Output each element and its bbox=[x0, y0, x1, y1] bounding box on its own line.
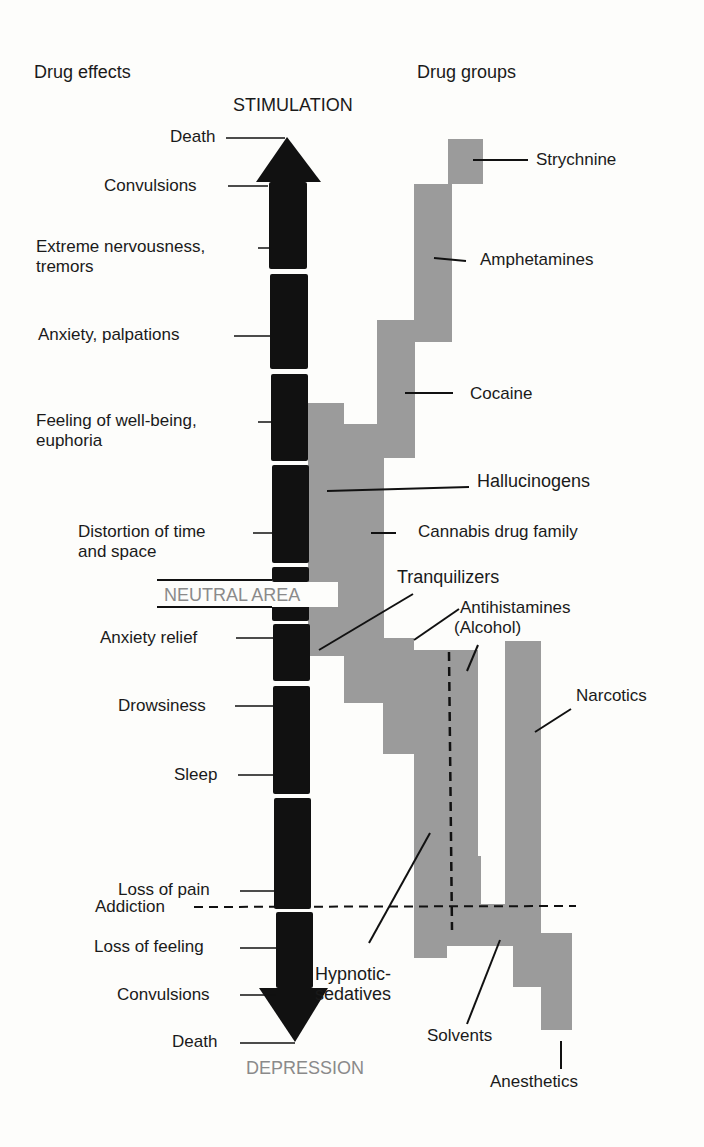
group-strychnine: Strychnine bbox=[536, 150, 616, 170]
effect-loss-of-pain: Loss of pain bbox=[118, 880, 210, 900]
effect-distortion-time-space: Distortion of time and space bbox=[78, 522, 206, 562]
amphetamines-range bbox=[414, 184, 452, 342]
effect-anxiety-relief: Anxiety relief bbox=[100, 628, 197, 648]
effect-extreme-nervousness: Extreme nervousness, tremors bbox=[36, 237, 205, 277]
effect-death-top: Death bbox=[170, 127, 215, 147]
drug-groups-header: Drug groups bbox=[417, 62, 516, 83]
effect-convulsions-top: Convulsions bbox=[104, 176, 197, 196]
group-solvents: Solvents bbox=[427, 1026, 492, 1046]
group-hallucinogens: Hallucinogens bbox=[477, 471, 590, 491]
group-cannabis: Cannabis drug family bbox=[418, 522, 578, 542]
cocaine-range bbox=[377, 320, 415, 458]
group-narcotics: Narcotics bbox=[576, 686, 647, 706]
group-hypnotic-sedatives: Hypnotic- sedatives bbox=[315, 964, 391, 1004]
group-anesthetics: Anesthetics bbox=[490, 1072, 578, 1092]
drug-effects-header: Drug effects bbox=[34, 62, 131, 83]
group-tranquilizers: Tranquilizers bbox=[397, 567, 499, 587]
arrow-up-head bbox=[256, 137, 321, 182]
depression-label: DEPRESSION bbox=[246, 1058, 364, 1078]
group-antihistamines-alcohol: Antihistamines (Alcohol) bbox=[460, 598, 571, 638]
neutral-area-label: NEUTRAL AREA bbox=[164, 585, 300, 605]
effect-death-bottom: Death bbox=[172, 1032, 217, 1052]
effect-anxiety-palpations: Anxiety, palpations bbox=[38, 325, 179, 345]
effect-well-being: Feeling of well-being, euphoria bbox=[36, 411, 197, 451]
effect-drowsiness: Drowsiness bbox=[118, 696, 206, 716]
addiction-label: Addiction bbox=[95, 897, 165, 917]
effect-convulsions-bottom: Convulsions bbox=[117, 985, 210, 1005]
strychnine-range bbox=[448, 139, 483, 184]
stimulation-label: STIMULATION bbox=[233, 95, 353, 115]
group-cocaine: Cocaine bbox=[470, 384, 532, 404]
group-amphetamines: Amphetamines bbox=[480, 250, 593, 270]
effect-loss-of-feeling: Loss of feeling bbox=[94, 937, 204, 957]
effect-sleep: Sleep bbox=[174, 765, 217, 785]
